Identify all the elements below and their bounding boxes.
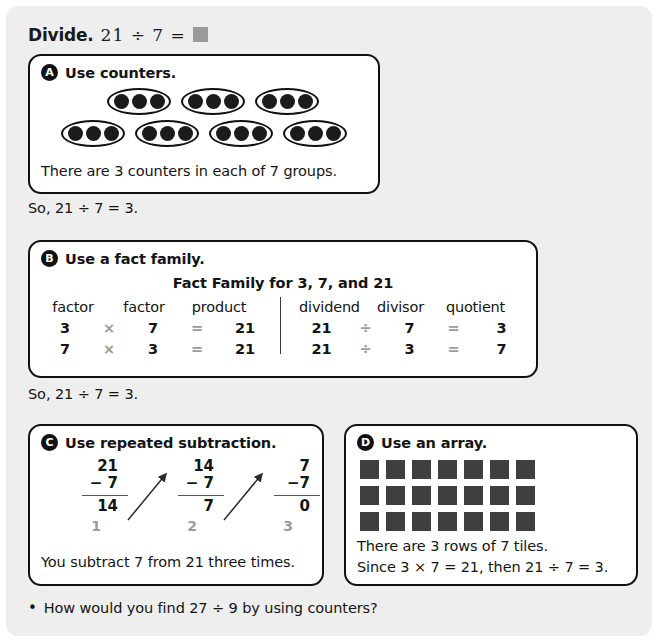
subtraction-step-3: 7 −7 0 3 xyxy=(264,458,320,534)
bullet-icon: • xyxy=(28,601,37,616)
panel-b-header: B Use a fact family. xyxy=(41,250,205,267)
counter-dot xyxy=(68,126,83,141)
panel-b-title: Use a fact family. xyxy=(65,251,205,267)
table-row: 21 ÷ 3 = 7 xyxy=(295,339,537,360)
panel-c-repeated-subtraction: C Use repeated subtraction. 21 − 7 14 1 xyxy=(28,424,324,586)
counter-dot xyxy=(224,94,239,109)
step2-subtrahend: − 7 xyxy=(168,475,224,492)
div-row2-a: 21 xyxy=(295,339,349,360)
div-row2-op1: ÷ xyxy=(349,339,383,360)
step2-rule xyxy=(178,495,224,496)
step3-result: 0 xyxy=(264,498,320,515)
counter-dot xyxy=(280,94,295,109)
step1-rule xyxy=(82,495,128,496)
counter-dot xyxy=(252,126,267,141)
array-tile xyxy=(386,460,405,479)
array-tile xyxy=(386,512,405,531)
column-header-quotient: quotient xyxy=(437,299,515,315)
step1-subtrahend: − 7 xyxy=(72,475,128,492)
arrow-step-1-to-2 xyxy=(128,474,166,520)
array-tile xyxy=(516,512,535,531)
div-row2-result: 7 xyxy=(471,339,533,360)
array-tile xyxy=(412,460,431,479)
counter-dot xyxy=(86,126,101,141)
step1-number: 1 xyxy=(72,515,128,534)
panel-badge-c: C xyxy=(41,434,58,451)
panel-d-footer-line-2: Since 3 × 7 = 21, then 21 ÷ 7 = 3. xyxy=(357,557,608,578)
mult-row1-result: 21 xyxy=(214,318,276,339)
table-row: 7 × 3 = 21 xyxy=(38,339,280,360)
array-tile xyxy=(360,486,379,505)
counter-dot xyxy=(104,126,119,141)
answer-blank-placeholder[interactable] xyxy=(193,27,208,42)
counter-dot xyxy=(132,94,147,109)
counter-dot xyxy=(178,126,193,141)
fact-family-title: Fact Family for 3, 7, and 21 xyxy=(30,275,536,291)
mult-row1-op2: = xyxy=(180,318,214,339)
counter-group xyxy=(61,120,125,147)
multiplication-side: factor factor product 3 × 7 = 21 7 × 3 =… xyxy=(30,299,280,360)
array-tile xyxy=(386,486,405,505)
divide-label: Divide. xyxy=(28,25,94,45)
mult-row2-op1: × xyxy=(92,339,126,360)
counter-dot xyxy=(234,126,249,141)
div-row1-op2: = xyxy=(437,318,471,339)
multiplication-headers: factor factor product xyxy=(38,299,280,318)
div-row1-b: 7 xyxy=(383,318,437,339)
panel-b-fact-family: B Use a fact family. Fact Family for 3, … xyxy=(28,240,538,378)
mult-row1-b: 7 xyxy=(126,318,180,339)
counter-dot xyxy=(216,126,231,141)
counter-row-bottom xyxy=(30,120,378,147)
division-headers: dividend divisor quotient xyxy=(295,299,537,318)
array-tile xyxy=(438,460,457,479)
div-row2-b: 3 xyxy=(383,339,437,360)
array-tile xyxy=(360,512,379,531)
array-tile xyxy=(464,512,483,531)
counters-diagram xyxy=(30,88,378,152)
panel-a-use-counters: A Use counters. xyxy=(28,54,380,194)
panel-c-header: C Use repeated subtraction. xyxy=(41,434,276,451)
table-row: 21 ÷ 7 = 3 xyxy=(295,318,537,339)
counter-row-top xyxy=(30,88,378,115)
step2-result: 7 xyxy=(168,498,224,515)
step2-number: 2 xyxy=(168,515,224,534)
array-row xyxy=(360,512,535,531)
counter-group xyxy=(283,120,347,147)
array-tile xyxy=(464,486,483,505)
panel-c-footer: You subtract 7 from 21 three times. xyxy=(41,554,295,570)
counter-group xyxy=(135,120,199,147)
step3-minuend: 7 xyxy=(264,458,320,475)
column-header-dividend: dividend xyxy=(295,299,365,315)
divide-expression: 21 ÷ 7 = xyxy=(101,25,186,45)
step1-minuend: 21 xyxy=(72,458,128,475)
counter-dot xyxy=(298,94,313,109)
column-header-product: product xyxy=(180,299,258,315)
mult-row1-op1: × xyxy=(92,318,126,339)
array-tile xyxy=(464,460,483,479)
division-side: dividend divisor quotient 21 ÷ 7 = 3 21 … xyxy=(281,299,537,360)
counter-dot xyxy=(308,126,323,141)
conclusion-after-a: So, 21 ÷ 7 = 3. xyxy=(28,200,138,216)
counter-group xyxy=(181,88,245,115)
counter-group xyxy=(209,120,273,147)
counter-dot xyxy=(160,126,175,141)
panel-d-title: Use an array. xyxy=(381,435,487,451)
array-tile xyxy=(360,460,379,479)
array-tile xyxy=(490,486,509,505)
array-tile xyxy=(490,512,509,531)
panel-badge-a: A xyxy=(41,64,58,81)
mult-row2-result: 21 xyxy=(214,339,276,360)
counter-dot xyxy=(262,94,277,109)
worksheet-page: Divide. 21 ÷ 7 = A Use counters. xyxy=(6,6,652,636)
array-tile xyxy=(516,486,535,505)
mult-row2-a: 7 xyxy=(38,339,92,360)
panel-badge-d: D xyxy=(357,434,374,451)
column-header-factor-2: factor xyxy=(108,299,180,315)
panel-d-footer-line-1: There are 3 rows of 7 tiles. xyxy=(357,536,608,557)
panel-d-use-an-array: D Use an array. xyxy=(344,424,638,586)
array-tile xyxy=(490,460,509,479)
mult-row2-op2: = xyxy=(180,339,214,360)
counter-dot xyxy=(150,94,165,109)
page-title: Divide. 21 ÷ 7 = xyxy=(28,25,208,49)
fact-family-table: factor factor product 3 × 7 = 21 7 × 3 =… xyxy=(30,299,536,360)
